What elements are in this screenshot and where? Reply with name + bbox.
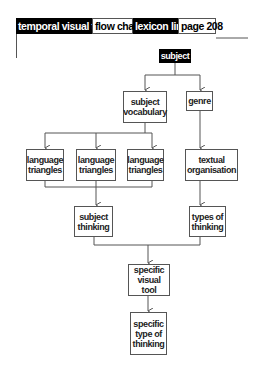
node-specific-visual-tool: specific visual tool	[128, 264, 170, 296]
node-specific-type-of-thinking: specific type of thinking	[130, 312, 167, 355]
node-subject-thinking: subject thinking	[74, 206, 113, 237]
node-language-triangles-3: language triangles	[127, 149, 164, 181]
node-subject: subject	[159, 49, 191, 63]
node-language-triangles-1: language triangles	[26, 149, 64, 181]
node-genre: genre	[186, 91, 213, 111]
node-subject-vocabulary: subject vocabulary	[123, 91, 167, 123]
node-types-of-thinking: types of thinking	[189, 206, 226, 237]
node-textual-organisation: textual organisation	[185, 149, 238, 181]
node-language-triangles-2: language triangles	[76, 149, 116, 181]
